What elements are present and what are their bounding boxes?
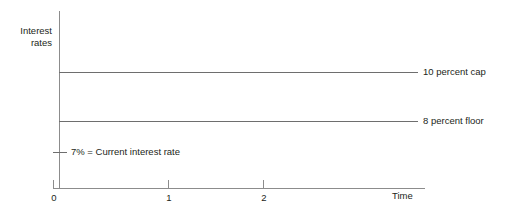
x-tick-0 [53, 180, 54, 189]
x-axis-title: Time [392, 190, 413, 202]
cap-line [59, 72, 418, 73]
floor-line-label: 8 percent floor [423, 115, 484, 126]
cap-line-label: 10 percent cap [423, 66, 486, 77]
y-axis-title-line2: rates [0, 37, 52, 49]
y-axis-title: Interest rates [0, 25, 52, 49]
x-axis-line [53, 188, 425, 189]
floor-line [59, 121, 418, 122]
interest-rate-chart: Interest rates 10 percent cap 8 percent … [0, 0, 510, 214]
current-rate-annotation: 7% = Current interest rate [71, 146, 180, 157]
x-tick-label-2: 2 [254, 192, 274, 203]
y-axis-line [59, 11, 60, 189]
y-axis-title-line1: Interest [0, 25, 52, 37]
x-tick-1 [168, 180, 169, 189]
x-tick-label-1: 1 [159, 192, 179, 203]
x-tick-label-0: 0 [44, 192, 64, 203]
current-rate-tick [53, 152, 67, 153]
x-tick-2 [263, 180, 264, 189]
